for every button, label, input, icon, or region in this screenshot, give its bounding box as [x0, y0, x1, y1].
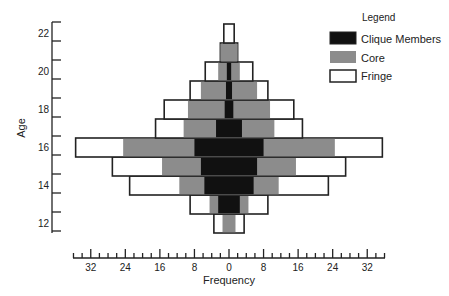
y-tick-label: 12: [38, 218, 50, 229]
legend: Legend Clique Members Core Fringe: [330, 12, 442, 82]
x-tick-label: 32: [362, 262, 374, 273]
y-tick-label: 18: [38, 104, 50, 115]
y-axis: 121416182022: [38, 22, 61, 233]
population-pyramid-chart: 121416182022 322416808162432 Age Frequen…: [0, 0, 449, 296]
bar-clique-age-19: [226, 82, 232, 99]
y-tick-label: 14: [38, 180, 50, 191]
y-tick-label: 22: [38, 28, 50, 39]
x-tick-label: 24: [327, 262, 339, 273]
bar-clique-age-20: [227, 63, 231, 80]
x-tick-label: 0: [226, 262, 232, 273]
legend-swatch-fringe: [330, 70, 356, 82]
bar-clique-age-17: [216, 120, 242, 137]
bar-clique-age-14: [204, 177, 253, 194]
y-axis-title: Age: [15, 118, 27, 138]
y-tick-label: 20: [38, 66, 50, 77]
y-tick-label: 16: [38, 142, 50, 153]
bar-clique-age-18: [225, 101, 234, 118]
bar-clique-age-15: [201, 158, 257, 175]
x-axis: 322416808162432: [73, 249, 385, 273]
x-tick-label: 16: [154, 262, 166, 273]
bar-core-age-12: [223, 215, 236, 232]
legend-label-clique: Clique Members: [361, 33, 442, 45]
x-tick-label: 16: [293, 262, 305, 273]
x-axis-title: Frequency: [203, 274, 255, 286]
x-tick-label: 8: [192, 262, 198, 273]
x-tick-label: 8: [261, 262, 267, 273]
x-tick-label: 24: [120, 262, 132, 273]
legend-label-fringe: Fringe: [361, 70, 392, 82]
legend-label-core: Core: [361, 52, 385, 64]
legend-title: Legend: [362, 12, 395, 23]
legend-swatch-clique: [330, 32, 356, 44]
x-tick-label: 32: [85, 262, 97, 273]
bar-core-age-21: [220, 44, 237, 61]
legend-swatch-core: [330, 51, 356, 63]
bar-clique-age-13: [218, 196, 240, 213]
bar-fringe-age-22: [224, 24, 234, 43]
bar-clique-age-16: [194, 139, 263, 156]
